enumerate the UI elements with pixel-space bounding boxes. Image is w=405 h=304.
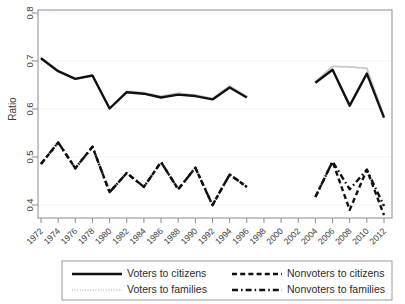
xtick-label-1972: 1972 (24, 226, 45, 247)
xtick-label-2006: 2006 (316, 226, 337, 247)
legend-label-nonvoters-to-families: Nonvoters to families (287, 283, 385, 295)
plot-background (38, 10, 392, 218)
xtick-label-2010: 2010 (350, 226, 371, 247)
ytick-label-0.4: 0.4 (24, 198, 35, 211)
y-axis-labels: 0.8 0.7 0.6 0.5 0.4 (24, 6, 35, 211)
xtick-label-2000: 2000 (264, 226, 285, 247)
legend-label-voters-to-families: Voters to families (127, 283, 207, 295)
x-axis-ticks (41, 218, 384, 223)
ratio-line-chart: 0.8 0.7 0.6 0.5 0.4 Ratio 19721974197619… (0, 0, 405, 304)
xtick-label-1992: 1992 (196, 226, 217, 247)
x-axis-labels: 1972197419761978198019821984198619881990… (24, 226, 388, 247)
xtick-label-2012: 2012 (367, 226, 388, 247)
xtick-label-2008: 2008 (333, 226, 354, 247)
xtick-label-1980: 1980 (93, 226, 114, 247)
ytick-label-0.5: 0.5 (24, 150, 35, 163)
xtick-label-1976: 1976 (59, 226, 80, 247)
xtick-label-1988: 1988 (162, 226, 183, 247)
xtick-label-1998: 1998 (247, 226, 268, 247)
xtick-label-1990: 1990 (179, 226, 200, 247)
chart-figure: 0.8 0.7 0.6 0.5 0.4 Ratio 19721974197619… (0, 0, 405, 304)
xtick-label-1994: 1994 (213, 226, 234, 247)
legend-label-voters-to-citizens: Voters to citizens (127, 267, 206, 279)
ytick-label-0.8: 0.8 (24, 6, 35, 19)
y-axis-title: Ratio (7, 97, 18, 121)
xtick-label-1986: 1986 (144, 226, 165, 247)
xtick-label-1978: 1978 (76, 226, 97, 247)
legend-label-nonvoters-to-citizens: Nonvoters to citizens (287, 267, 384, 279)
xtick-label-1982: 1982 (110, 226, 131, 247)
ytick-label-0.6: 0.6 (24, 102, 35, 115)
xtick-label-1996: 1996 (230, 226, 251, 247)
xtick-label-1974: 1974 (41, 226, 62, 247)
ytick-label-0.7: 0.7 (24, 54, 35, 67)
xtick-label-2002: 2002 (282, 226, 303, 247)
xtick-label-1984: 1984 (127, 226, 148, 247)
xtick-label-2004: 2004 (299, 226, 320, 247)
